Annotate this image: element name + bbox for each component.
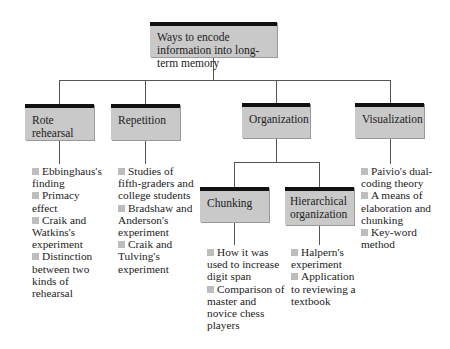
connector-chunking-list <box>234 222 235 245</box>
node-label: Hierarchical organization <box>290 195 347 220</box>
connector-level2-horizontal <box>234 162 320 163</box>
list-repetition: Studies of fifth-graders and college stu… <box>118 165 198 275</box>
connector-hierarchical <box>319 162 320 188</box>
connector-repetition-list <box>145 140 146 164</box>
node-organization: Organization <box>242 103 310 138</box>
list-item: Distinction between two kinds of rehears… <box>32 250 104 299</box>
list-item: How it was used to increase digit span <box>207 246 289 283</box>
connector-visualization-list <box>390 137 391 164</box>
root-label: Ways to encode information into long-ter… <box>157 31 259 69</box>
list-item: Application to reviewing a textbook <box>291 270 357 307</box>
list-item: Bradshaw and Anderson's experiment <box>118 202 198 239</box>
square-bullet-icon <box>118 168 125 175</box>
list-visualization: Paivio's dual-coding theory A means of e… <box>361 165 433 250</box>
node-rote-rehearsal: Rote rehearsal <box>25 104 94 140</box>
node-label: Repetition <box>118 114 166 126</box>
square-bullet-icon <box>207 286 214 293</box>
square-bullet-icon <box>32 253 39 260</box>
list-item: Studies of fifth-graders and college stu… <box>118 165 198 202</box>
square-bullet-icon <box>361 229 368 236</box>
node-visualization: Visualization <box>355 103 424 138</box>
list-item: A means of elaboration and chunking <box>361 189 433 226</box>
square-bullet-icon <box>32 192 39 199</box>
square-bullet-icon <box>291 273 298 280</box>
square-bullet-icon <box>291 249 298 256</box>
node-label: Organization <box>249 113 309 125</box>
square-bullet-icon <box>118 205 125 212</box>
node-hierarchical-organization: Hierarchical organization <box>285 187 354 225</box>
list-hierarchical-organization: Halpern's experiment Application to revi… <box>291 246 357 307</box>
node-label: Chunking <box>207 197 252 209</box>
node-label: Rote rehearsal <box>32 114 74 139</box>
list-item: Comparison of master and novice chess pl… <box>207 283 289 332</box>
root-node: Ways to encode information into long-ter… <box>150 22 277 57</box>
connector-rote <box>59 80 60 104</box>
list-rote-rehearsal: Ebbinghaus's finding Primacy effect Crai… <box>32 165 104 299</box>
square-bullet-icon <box>32 217 39 224</box>
list-item: Craik and Tulving's experiment <box>118 238 198 275</box>
connector-level1-horizontal <box>59 80 390 81</box>
list-item: Ebbinghaus's finding <box>32 165 104 189</box>
node-chunking: Chunking <box>200 187 269 222</box>
connector-visualization <box>390 80 391 104</box>
node-repetition: Repetition <box>111 104 180 140</box>
node-label: Visualization <box>362 113 423 125</box>
square-bullet-icon <box>361 168 368 175</box>
list-item: Craik and Watkins's experiment <box>32 214 104 251</box>
connector-chunking <box>234 162 235 188</box>
square-bullet-icon <box>361 192 368 199</box>
connector-organization-down <box>276 137 277 162</box>
connector-organization <box>276 80 277 104</box>
connector-rote-list <box>59 140 60 164</box>
list-chunking: How it was used to increase digit span C… <box>207 246 289 331</box>
list-item: Halpern's experiment <box>291 246 357 270</box>
list-item: Primacy effect <box>32 189 104 213</box>
connector-repetition <box>145 80 146 104</box>
square-bullet-icon <box>207 249 214 256</box>
connector-hierarchical-list <box>319 225 320 245</box>
square-bullet-icon <box>32 168 39 175</box>
list-item: Key-word method <box>361 226 433 250</box>
square-bullet-icon <box>118 241 125 248</box>
list-item: Paivio's dual-coding theory <box>361 165 433 189</box>
